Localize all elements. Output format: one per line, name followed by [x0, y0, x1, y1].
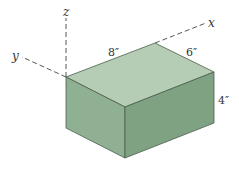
box-diagram: z y x 8″ 6″ 4″ — [0, 0, 239, 170]
y-axis-label: y — [11, 49, 19, 63]
x-axis-label: x — [208, 16, 215, 30]
width-dimension-label: 6″ — [186, 46, 197, 59]
length-dimension-label: 8″ — [108, 46, 119, 59]
x-axis — [155, 23, 206, 43]
height-dimension-label: 4″ — [218, 94, 229, 107]
y-axis — [22, 57, 66, 77]
z-axis-label: z — [62, 5, 70, 19]
